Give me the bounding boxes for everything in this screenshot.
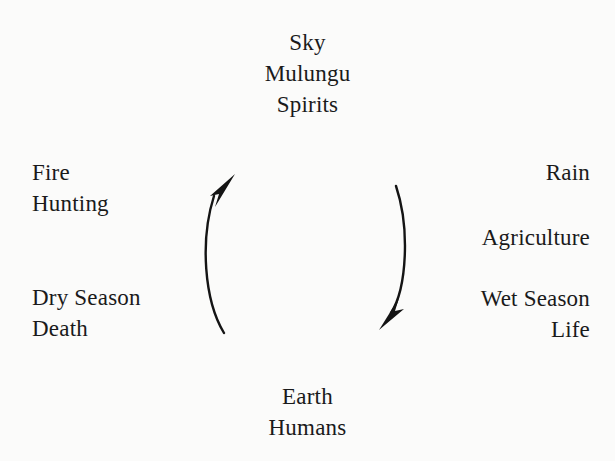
descending-arrow-head [379, 298, 404, 330]
ascending-arrow-head [210, 174, 235, 207]
cycle-diagram: Sky Mulungu Spirits Fire Hunting Dry Sea… [0, 0, 615, 461]
descending-arrow-shaft [391, 186, 405, 313]
arrows-layer [0, 0, 615, 461]
ascending-arrow [206, 174, 235, 333]
descending-arrow [379, 186, 405, 330]
ascending-arrow-shaft [206, 196, 224, 333]
